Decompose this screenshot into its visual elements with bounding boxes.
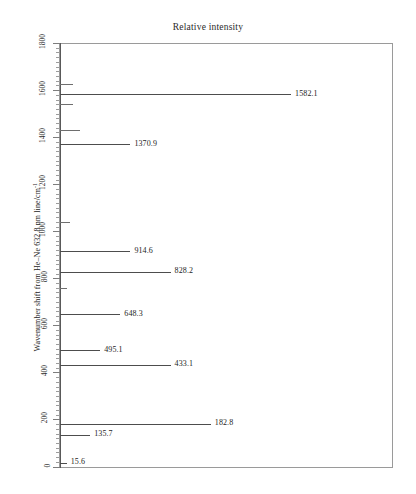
y-axis-tick-label-text: 200 [40,412,49,423]
chart-title: Relative intensity [0,22,416,32]
y-axis-tick-label-text: 0 [44,463,53,467]
y-axis-tick-label-text: 600 [40,318,49,329]
y-axis-tick-label: 0 [16,461,50,470]
y-axis-tick-label-text: 1400 [38,128,47,143]
y-axis-tick-label: 1400 [16,131,50,140]
y-axis-tick-label: 600 [16,319,50,328]
y-axis-tick-label-text: 1600 [38,81,47,96]
y-axis-title-exponent: -1 [32,183,38,188]
y-axis-tick-label: 1600 [16,84,50,93]
plot-frame [59,43,393,468]
y-axis-tick-label-text: 400 [40,365,49,376]
y-axis-tick-label: 1000 [16,225,50,234]
y-axis-tick-label: 200 [16,413,50,422]
y-axis-tick-label: 800 [16,272,50,281]
y-axis-tick-label-text: 800 [40,271,49,282]
raman-spectrum-figure: Relative intensity Wavenumber shift from… [0,0,416,494]
y-axis-tick-label-text: 1000 [38,222,47,237]
y-axis-tick-label-text: 1200 [38,175,47,190]
y-axis-tick-label-text: 1800 [38,34,47,49]
y-axis-title-text: Wavenumber shift from He–Ne 632.8 nm lin… [33,188,42,352]
y-axis-title: Wavenumber shift from He–Ne 632.8 nm lin… [32,167,43,367]
y-axis-tick-label: 1800 [16,37,50,46]
y-axis-tick-label: 1200 [16,178,50,187]
y-axis-tick-label: 400 [16,366,50,375]
